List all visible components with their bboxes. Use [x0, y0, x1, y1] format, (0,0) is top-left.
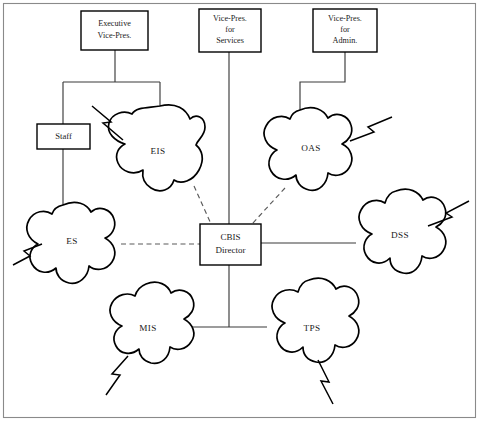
box-label-vice-pres-admin-line1: Vice-Pres. — [328, 14, 362, 23]
connector-oas-to-cbis — [252, 188, 285, 224]
blob-label-tps: TPS — [303, 323, 320, 333]
box-label-executive-vice-pres-line1: Executive — [98, 19, 131, 28]
blob-label-mis: MIS — [139, 323, 157, 333]
box-label-executive-vice-pres-line2: Vice-Pres. — [98, 31, 132, 40]
box-label-vice-pres-admin-line2: for — [340, 25, 350, 34]
box-label-vice-pres-services-line3: Services — [216, 36, 244, 45]
box-label-vice-pres-services-line2: for — [225, 25, 235, 34]
box-cbis-director[interactable]: CBIS Director — [200, 224, 261, 265]
box-vice-pres-admin[interactable]: Vice-Pres. for Admin. — [313, 9, 377, 52]
connector-eis-to-cbis — [194, 186, 211, 224]
blob-label-dss: DSS — [391, 230, 409, 240]
box-label-cbis-director-line2: Director — [216, 245, 246, 255]
blob-label-es: ES — [66, 236, 78, 246]
box-label-staff: Staff — [55, 131, 72, 141]
blob-label-eis: EIS — [151, 146, 166, 156]
diagram-canvas: EIS OAS ES DSS MIS TPS Executive — [0, 0, 479, 421]
box-vice-pres-services[interactable]: Vice-Pres. for Services — [199, 9, 261, 52]
blob-label-oas: OAS — [301, 143, 321, 153]
bolt-oas-icon — [350, 117, 392, 141]
blob-tps[interactable] — [272, 278, 359, 362]
connector-vpadmin-to-oas — [300, 52, 345, 111]
bolt-tps-icon — [318, 360, 333, 404]
box-label-vice-pres-services-line1: Vice-Pres. — [213, 14, 247, 23]
box-label-cbis-director-line1: CBIS — [220, 232, 240, 242]
box-executive-vice-pres[interactable]: Executive Vice-Pres. — [81, 11, 148, 50]
box-staff[interactable]: Staff — [37, 124, 90, 149]
bolt-mis-icon — [106, 356, 128, 395]
box-label-vice-pres-admin-line3: Admin. — [333, 36, 358, 45]
